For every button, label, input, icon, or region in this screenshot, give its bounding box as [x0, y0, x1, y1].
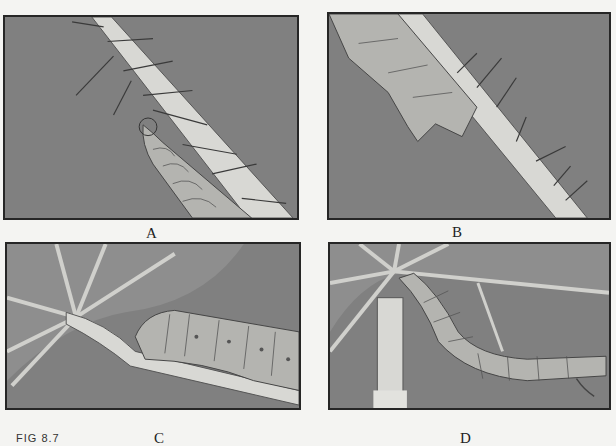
bleed-through-text-top: [0, 0, 616, 10]
illustration-b: [329, 14, 609, 218]
caption-d: D: [460, 431, 471, 446]
caption-b: B: [452, 225, 462, 240]
figure-label: FIG 8.7: [16, 433, 60, 444]
illustration-d: [330, 244, 609, 408]
panel-d: [328, 242, 611, 410]
panel-c: [5, 242, 301, 410]
panel-a: [3, 15, 299, 220]
illustration-c: [7, 244, 299, 408]
caption-c: C: [154, 431, 164, 446]
illustration-a: [5, 17, 297, 218]
caption-a: A: [146, 226, 157, 241]
panel-b: [327, 12, 611, 220]
